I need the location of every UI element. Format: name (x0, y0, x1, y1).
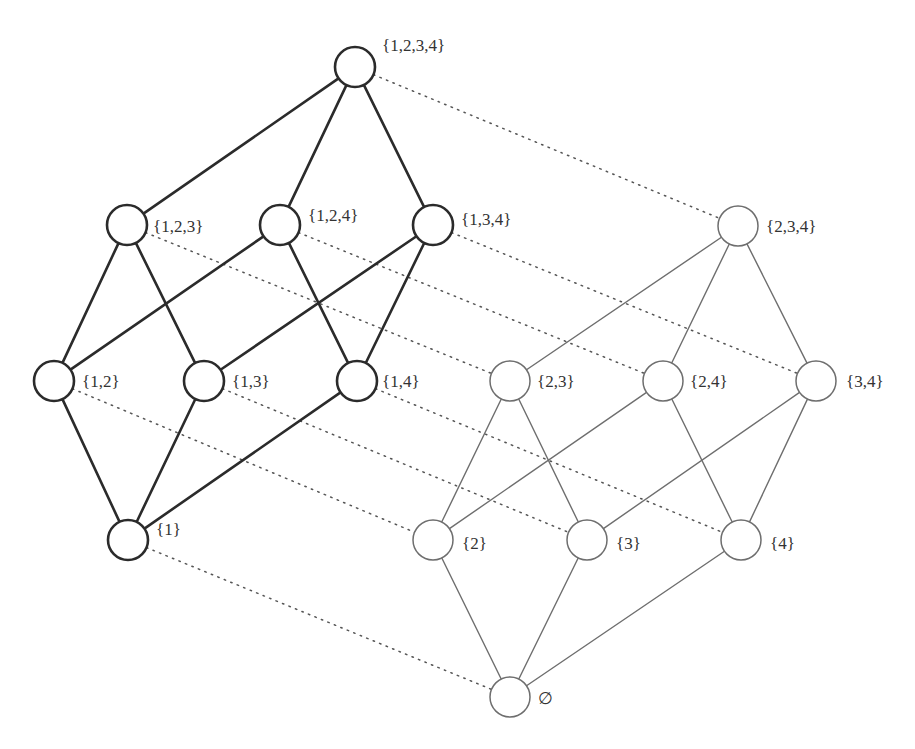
dotted-edge-13-3 (222, 389, 568, 533)
thin-edge-234-23 (527, 237, 722, 370)
bold-edge-124-12 (70, 236, 263, 369)
node-label-1: {1} (156, 520, 181, 539)
node-circle-1234 (335, 47, 375, 87)
node-circle-24 (643, 361, 683, 401)
node-circle-124 (260, 205, 300, 245)
node-circle-0 (490, 677, 530, 717)
node-circle-34 (796, 361, 836, 401)
node-circle-4 (721, 520, 761, 560)
node-circle-1 (108, 520, 148, 560)
node-label-1234: {1,2,3,4} (382, 36, 445, 55)
node-label-14: {1,4} (382, 372, 420, 391)
bold-edges (62, 78, 424, 528)
node-label-4: {4} (770, 534, 795, 553)
node-label-0: ∅ (538, 689, 553, 708)
node-label-23: {2,3} (537, 372, 575, 391)
thin-edge-2-0 (442, 558, 501, 679)
node-circle-123 (107, 205, 147, 245)
node-label-3: {3} (616, 534, 641, 553)
node-circle-12 (34, 361, 74, 401)
thin-edges (442, 237, 808, 686)
node-circle-2 (413, 520, 453, 560)
thin-edge-24-2 (449, 392, 646, 528)
node-circle-134 (413, 205, 453, 245)
node-label-24: {2,4} (690, 372, 728, 391)
thin-edge-234-24 (672, 244, 730, 363)
node-label-123: {1,2,3} (153, 217, 203, 236)
node-label-134: {1,3,4} (461, 210, 511, 229)
bold-edge-123-12 (62, 243, 118, 363)
node-label-234: {2,3,4} (766, 217, 816, 236)
node-circle-3 (567, 520, 607, 560)
node-circle-23 (490, 361, 530, 401)
node-label-34: {3,4} (846, 372, 884, 391)
thin-edge-234-34 (747, 244, 807, 363)
node-circle-14 (337, 361, 377, 401)
bold-edge-14-1 (144, 392, 340, 528)
bold-edge-1234-123 (143, 78, 338, 213)
node-label-13: {1,3} (232, 372, 270, 391)
thin-edge-23-2 (442, 399, 502, 522)
thin-edge-4-0 (527, 551, 725, 686)
lattice-diagram: {1,2,3,4}{1,2,3}{1,2,4}{1,3,4}{1,2}{1,3}… (0, 0, 915, 749)
bold-edge-1234-134 (364, 85, 424, 207)
dotted-edge-1234-234 (373, 75, 719, 219)
node-label-2: {2} (462, 534, 487, 553)
thin-edge-34-3 (603, 392, 799, 528)
thin-edge-34-4 (750, 399, 808, 522)
bold-edge-1234-124 (289, 85, 347, 207)
bold-edge-134-14 (366, 243, 424, 363)
node-circle-234 (718, 206, 758, 246)
dotted-edge-1-0 (146, 548, 491, 690)
bold-edge-12-1 (62, 399, 119, 522)
bold-edge-134-13 (221, 236, 417, 369)
bold-edge-13-1 (137, 399, 196, 522)
node-circle-13 (184, 361, 224, 401)
thin-edge-3-0 (519, 558, 578, 679)
node-label-12: {1,2} (82, 372, 120, 391)
node-label-124: {1,2,4} (308, 206, 358, 225)
dotted-edges (72, 75, 797, 690)
dotted-edge-124-24 (299, 233, 645, 374)
